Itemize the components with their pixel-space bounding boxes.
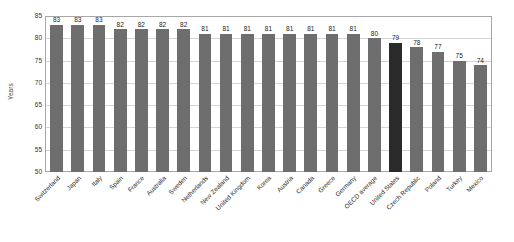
- bar-slot: 83: [46, 16, 67, 172]
- bar[interactable]: 81: [241, 34, 254, 172]
- x-label-slot: Korea: [258, 172, 279, 242]
- bar[interactable]: 82: [156, 29, 169, 172]
- bar[interactable]: 79: [389, 43, 402, 172]
- x-axis-tick-label: Poland: [424, 175, 443, 194]
- x-axis-tick-label: Korea: [256, 175, 273, 192]
- x-axis-tick-label: Switzerland: [33, 175, 61, 203]
- bars-container: 8383838282828281818181818181818079787775…: [45, 16, 492, 172]
- x-label-slot: Canada: [300, 172, 321, 242]
- x-axis-tick-label: Austria: [276, 175, 295, 194]
- bar-value-label: 81: [307, 26, 314, 33]
- x-axis-tick-labels: SwitzerlandJapanItalySpainFranceAustrali…: [45, 172, 492, 242]
- bar[interactable]: 83: [93, 25, 106, 172]
- y-axis-tick-label: 75: [22, 57, 42, 64]
- y-axis-tick-label: 60: [22, 124, 42, 131]
- bar-value-label: 83: [95, 17, 102, 24]
- x-label-slot: Sweden: [173, 172, 194, 242]
- bar-slot: 81: [194, 16, 215, 172]
- y-axis-tick-labels: 5055606570758085: [22, 16, 42, 172]
- bar-slot: 82: [173, 16, 194, 172]
- x-label-slot: France: [131, 172, 152, 242]
- bar[interactable]: 80: [368, 38, 381, 172]
- bar-slot: 81: [321, 16, 342, 172]
- bar[interactable]: 75: [453, 61, 466, 172]
- bar-slot: 81: [237, 16, 258, 172]
- bar-slot: 82: [152, 16, 173, 172]
- x-label-slot: Czech Republic: [406, 172, 427, 242]
- bar[interactable]: 74: [474, 65, 487, 172]
- bar-slot: 83: [88, 16, 109, 172]
- bar-value-label: 83: [74, 17, 81, 24]
- y-axis-tick-label: 55: [22, 146, 42, 153]
- x-label-slot: Australia: [152, 172, 173, 242]
- bar[interactable]: 83: [71, 25, 84, 172]
- bar-slot: 81: [343, 16, 364, 172]
- x-label-slot: Switzerland: [46, 172, 67, 242]
- y-axis-tick-label: 80: [22, 35, 42, 42]
- bar-slot: 82: [110, 16, 131, 172]
- bar-slot: 79: [385, 16, 406, 172]
- bar[interactable]: 83: [50, 25, 63, 172]
- bar-value-label: 82: [180, 22, 187, 29]
- y-axis-tick-label: 50: [22, 169, 42, 176]
- bar[interactable]: 78: [410, 47, 423, 172]
- bar-value-label: 81: [244, 26, 251, 33]
- bar-value-label: 82: [159, 22, 166, 29]
- x-label-slot: Italy: [88, 172, 109, 242]
- bar-slot: 78: [406, 16, 427, 172]
- bar-slot: 74: [470, 16, 491, 172]
- x-label-slot: Turkey: [449, 172, 470, 242]
- bar[interactable]: 82: [114, 29, 127, 172]
- x-label-slot: United Kingdom: [237, 172, 258, 242]
- bar-value-label: 83: [53, 17, 60, 24]
- x-label-slot: Japan: [67, 172, 88, 242]
- bar-slot: 81: [258, 16, 279, 172]
- bar[interactable]: 81: [283, 34, 296, 172]
- bar-value-label: 79: [392, 35, 399, 42]
- bar[interactable]: 82: [177, 29, 190, 172]
- x-label-slot: Austria: [279, 172, 300, 242]
- bar[interactable]: 82: [135, 29, 148, 172]
- y-axis-tick-label: 70: [22, 80, 42, 87]
- x-label-slot: Netherlands: [194, 172, 215, 242]
- bar-value-label: 80: [371, 31, 378, 38]
- bar-value-label: 81: [265, 26, 272, 33]
- bar-value-label: 74: [477, 58, 484, 65]
- bar-value-label: 75: [456, 53, 463, 60]
- bar[interactable]: 81: [347, 34, 360, 172]
- bar-value-label: 81: [286, 26, 293, 33]
- bar[interactable]: 81: [326, 34, 339, 172]
- bar[interactable]: 81: [220, 34, 233, 172]
- x-axis-tick-label: Japan: [65, 175, 82, 192]
- x-label-slot: Mexico: [470, 172, 491, 242]
- bar-slot: 83: [67, 16, 88, 172]
- bar-value-label: 81: [350, 26, 357, 33]
- x-axis-tick-label: Italy: [91, 175, 104, 188]
- bar-value-label: 78: [413, 40, 420, 47]
- bar-chart: Years 5055606570758085 83838382828282818…: [0, 0, 514, 242]
- bar[interactable]: 81: [262, 34, 275, 172]
- y-axis-tick-label: 85: [22, 13, 42, 20]
- x-label-slot: Greece: [321, 172, 342, 242]
- x-axis-tick-label: Spain: [109, 175, 125, 191]
- bar-value-label: 81: [328, 26, 335, 33]
- y-axis-title: Years: [7, 72, 14, 112]
- bar-value-label: 82: [138, 22, 145, 29]
- x-axis-tick-label: Turkey: [446, 175, 464, 193]
- bar-slot: 81: [279, 16, 300, 172]
- bar[interactable]: 81: [304, 34, 317, 172]
- bar-value-label: 81: [222, 26, 229, 33]
- y-axis-tick-label: 65: [22, 102, 42, 109]
- x-label-slot: Spain: [110, 172, 131, 242]
- bar-slot: 77: [427, 16, 448, 172]
- bar-slot: 75: [449, 16, 470, 172]
- x-axis-tick-label: Mexico: [466, 175, 485, 194]
- bar-slot: 81: [300, 16, 321, 172]
- x-label-slot: Poland: [427, 172, 448, 242]
- bar-slot: 82: [131, 16, 152, 172]
- bar[interactable]: 77: [432, 52, 445, 172]
- x-axis-tick-label: France: [127, 175, 146, 194]
- bar-slot: 81: [216, 16, 237, 172]
- bar[interactable]: 81: [199, 34, 212, 172]
- bar-value-label: 82: [117, 22, 124, 29]
